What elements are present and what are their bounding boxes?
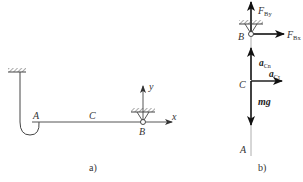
point-b-label: B: [238, 31, 244, 42]
ceiling-support-icon: [8, 68, 26, 72]
rope-hook: [20, 72, 39, 135]
diagram-canvas: A C B x y a) FBy FBx B aCn: [0, 0, 303, 182]
point-c-label: C: [239, 79, 246, 90]
force-fby-label: FBy: [257, 5, 272, 17]
caption-a: a): [89, 162, 97, 174]
pin-b: [249, 32, 254, 37]
point-a-label: A: [239, 144, 247, 155]
accel-act-label: aCτ: [269, 69, 281, 80]
caption-b: b): [258, 162, 266, 174]
point-c-label: C: [89, 110, 96, 121]
force-mg-label: mg: [258, 96, 271, 107]
y-axis-label: y: [148, 81, 154, 92]
point-b-label: B: [139, 126, 145, 137]
force-fbx-label: FBx: [286, 29, 301, 41]
x-axis-label: x: [171, 111, 177, 122]
point-a-label: A: [32, 110, 40, 121]
accel-acn-label: aCn: [259, 58, 271, 69]
figure-a: A C B x y a): [8, 68, 177, 174]
figure-b: FBy FBx B aCn aCτ C mg A b): [238, 2, 301, 174]
